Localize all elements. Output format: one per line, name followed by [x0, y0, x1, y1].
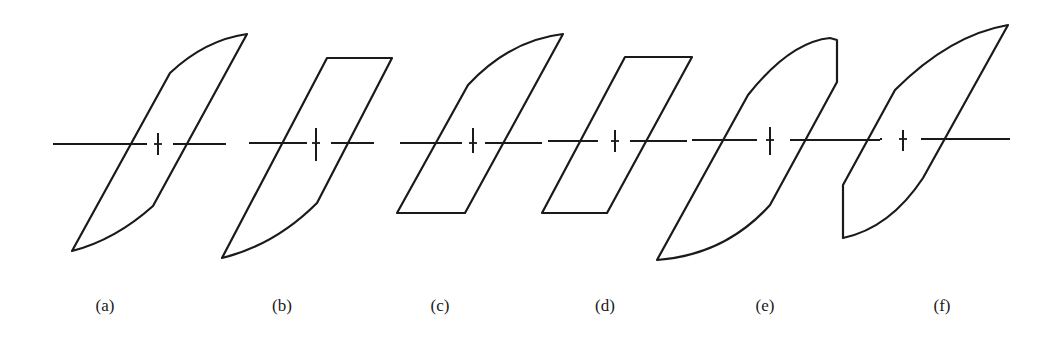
hysteresis-loops-figure: (a) (b) (c) (d) (e) (f)	[0, 0, 1058, 340]
panel-c	[397, 34, 563, 213]
panel-label-e: (e)	[756, 296, 775, 316]
loops-canvas	[0, 0, 1058, 340]
hysteresis-loop	[397, 34, 563, 213]
panel-b	[222, 58, 392, 258]
panel-label-d: (d)	[595, 296, 615, 316]
panel-label-c: (c)	[431, 296, 450, 316]
hysteresis-loop	[843, 25, 1008, 238]
panel-label-a: (a)	[96, 296, 115, 316]
hysteresis-loop	[222, 58, 392, 258]
panel-e	[657, 38, 880, 260]
panel-f	[843, 25, 1010, 238]
hysteresis-loop	[72, 34, 247, 251]
hysteresis-loop	[542, 57, 692, 213]
panel-label-f: (f)	[934, 296, 951, 316]
panel-a	[53, 34, 247, 251]
panel-d	[542, 57, 692, 213]
panel-label-b: (b)	[272, 296, 292, 316]
